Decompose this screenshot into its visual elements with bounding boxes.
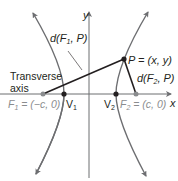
focus-f1-point [41, 92, 46, 97]
label-pointer [68, 51, 82, 70]
distance-f2-p-label: d(F2, P) [137, 72, 175, 85]
vertex-v2-point [113, 91, 118, 96]
point-p-label: P = (x, y) [128, 54, 172, 66]
x-axis-label: x [169, 97, 176, 109]
focus-f2-point [134, 92, 139, 97]
focus-f2-label: F2 = (c, 0) [120, 98, 166, 111]
vertex-v1-label: V1 [66, 98, 77, 111]
vertex-v2-label: V2 [104, 98, 115, 111]
hyperbola-diagram: y x d(F1, P) P = (x, y) d(F2, P) Transve… [0, 0, 178, 181]
distance-f1-p-label: d(F1, P) [50, 32, 88, 45]
point-p [121, 56, 126, 61]
transverse-axis-label: Transverse axis [10, 70, 65, 94]
vertex-v1-point [61, 91, 66, 96]
focus-f1-label: F1 = (−c, 0) [8, 98, 60, 111]
